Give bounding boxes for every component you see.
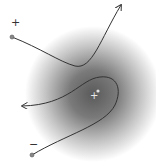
positive-label: + bbox=[11, 17, 20, 28]
diagram-canvas: + − + bbox=[0, 0, 156, 167]
positive-start-dot bbox=[10, 35, 14, 39]
negative-label: − bbox=[29, 139, 38, 150]
negative-start-dot bbox=[30, 153, 34, 157]
field-gradient bbox=[0, 0, 156, 167]
central-charge-label: + bbox=[90, 90, 98, 101]
